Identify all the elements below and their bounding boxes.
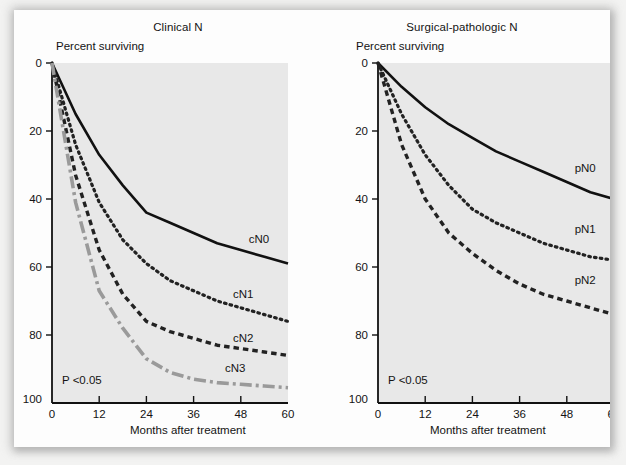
x-tick-label: 24 <box>466 408 479 420</box>
panel-clinical-plot: 10080604020001224364860 cN0cN1cN2cN3 P <… <box>14 10 326 447</box>
x-tick-label: 36 <box>513 408 526 420</box>
x-tick-label: 48 <box>560 408 573 420</box>
series-label-pn0: pN0 <box>575 162 596 174</box>
y-tick-label: 60 <box>355 261 368 273</box>
x-tick-label: 36 <box>187 408 200 420</box>
y-tick-label: 60 <box>29 261 42 273</box>
panel-clinical: Clinical N Percent surviving Months afte… <box>14 10 326 447</box>
y-tick-label: 20 <box>355 125 368 137</box>
x-tick-label: 48 <box>234 408 247 420</box>
panel-clinical-p-value: P <0.05 <box>62 374 102 386</box>
x-tick-label: 12 <box>93 408 106 420</box>
series-label-pn2: pN2 <box>575 274 596 286</box>
y-tick-label: 0 <box>36 57 42 69</box>
x-tick-label: 0 <box>49 408 55 420</box>
y-tick-label: 100 <box>349 393 368 405</box>
x-tick-label: 60 <box>282 408 295 420</box>
y-tick-label: 0 <box>362 57 368 69</box>
x-tick-label: 60 <box>608 408 610 420</box>
figure-page: Clinical N Percent surviving Months afte… <box>0 0 626 465</box>
series-label-pn1: pN1 <box>575 223 596 235</box>
x-tick-label: 0 <box>375 408 381 420</box>
panel-surgical-p-value: P <0.05 <box>388 374 428 386</box>
y-tick-label: 80 <box>355 329 368 341</box>
x-tick-label: 12 <box>419 408 432 420</box>
y-tick-label: 20 <box>29 125 42 137</box>
panel-surgical-plot: 10080604020001224364860 pN0pN1pN2 P <0.0… <box>326 10 610 447</box>
y-tick-label: 100 <box>23 393 42 405</box>
series-label-cn0: cN0 <box>249 233 269 245</box>
x-tick-label: 24 <box>140 408 153 420</box>
panel-surgical: Surgical-pathologic N Percent surviving … <box>326 10 610 447</box>
series-label-cn3: cN3 <box>225 362 245 374</box>
series-label-cn2: cN2 <box>233 332 253 344</box>
y-tick-label: 80 <box>29 329 42 341</box>
figure-card: Clinical N Percent surviving Months afte… <box>14 10 610 447</box>
series-label-cn1: cN1 <box>233 288 253 300</box>
y-tick-label: 40 <box>29 193 42 205</box>
y-tick-label: 40 <box>355 193 368 205</box>
